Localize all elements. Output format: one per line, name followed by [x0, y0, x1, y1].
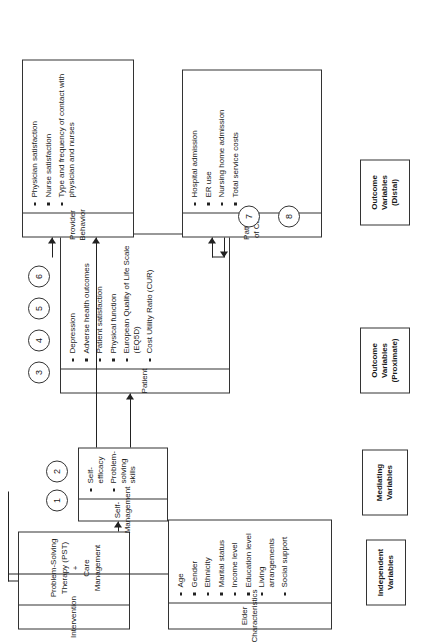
list-item: Cost Utility Ratio (CUR) [145, 239, 155, 362]
circle-marker-2: 2 [46, 460, 68, 482]
box-elder-header: Elder Characteristics [169, 602, 331, 628]
arrow-selfmgmt-to-provider [92, 237, 100, 243]
box-intervention-body: Problem-Solving Therapy (PST) + Care Man… [19, 532, 129, 604]
list-item: Total service costs [231, 75, 241, 206]
list-item: Gender [190, 525, 200, 596]
diagram-stage: Intervention Problem-Solving Therapy (PS… [0, 0, 426, 643]
list-item: Marital status [217, 525, 227, 596]
box-provider-body: Physician satisfaction Nurse satisfactio… [23, 60, 133, 212]
circle-marker-3: 3 [28, 361, 50, 383]
list-item: Type and frequency of contact with physi… [57, 65, 76, 206]
box-self-management: Self-Management Self-efficacy Problem-so… [78, 447, 168, 521]
self-management-item-list: Self-efficacy Problem-solving skills [86, 453, 138, 492]
line-selfmgmt-to-provider-horiz [96, 237, 97, 447]
circle-marker-1: 1 [46, 489, 68, 511]
list-item: Hospital admission [190, 75, 200, 206]
label-independent-variables: Independent Variables [366, 539, 406, 605]
list-item: Self-efficacy [86, 453, 105, 492]
list-item: Nurse satisfaction [44, 65, 54, 206]
list-item: Ethnicity [203, 525, 213, 596]
elder-header-line-1: Elder [240, 606, 249, 625]
connector-elder-up [8, 573, 168, 574]
circle-marker-4: 4 [28, 329, 50, 351]
list-item: Depression [68, 239, 78, 362]
list-item: Living arrangements [257, 525, 276, 596]
list-item: ER use [204, 75, 214, 206]
box-intervention-text: Problem-Solving Therapy (PST) + Care Man… [26, 537, 124, 598]
box-patterns-body: Hospital admission ER use Nursing home a… [183, 70, 321, 212]
label-mediating-variables: Mediating Variables [362, 449, 408, 515]
box-patient-body: Depression Adverse health outcomes Patie… [61, 234, 229, 368]
elder-item-list: Age Gender Ethnicity Marital status Inco… [176, 525, 290, 596]
mediating-label-line-1: Mediating [375, 463, 384, 500]
patient-item-list: Depression Adverse health outcomes Patie… [68, 239, 155, 362]
outcome-distal-label-line-3: (Distal) [390, 178, 399, 205]
list-item: Physical function [109, 239, 119, 362]
circle-marker-5: 5 [28, 297, 50, 319]
line-patient-riser [212, 256, 224, 257]
list-item: Physician satisfaction [30, 65, 40, 206]
intervention-line-2: Therapy (PST) [60, 541, 69, 593]
list-item: Adverse health outcomes [82, 239, 92, 362]
circle-marker-7: 7 [238, 205, 260, 227]
outcome-distal-label-line-1: Outcome [370, 175, 379, 210]
outcome-prox-label-line-2: Variables [380, 342, 389, 377]
line-selfmgmt-to-patient [130, 393, 131, 447]
arrow-into-self-management [114, 521, 122, 527]
outcome-distal-label-line-2: Variables [380, 174, 389, 209]
box-provider-behavior: Provider Behavior Physician satisfaction… [22, 59, 134, 237]
list-item: Age [176, 525, 186, 596]
intervention-line-1: Problem-Solving [49, 538, 58, 597]
mediating-label-line-2: Variables [385, 464, 394, 499]
box-elder-body: Age Gender Ethnicity Marital status Inco… [169, 520, 331, 602]
box-intervention-header: Intervention [19, 604, 129, 628]
list-item: Nursing home admission [217, 75, 227, 206]
outcome-prox-label-line-1: Outcome [370, 343, 379, 378]
list-item: Education level [244, 525, 254, 596]
box-patient: Patient Depression Adverse health outcom… [60, 233, 230, 393]
label-outcome-variables-proximate: Outcome Variables (Proximate) [360, 327, 410, 393]
arrow-patient-to-provider [48, 237, 56, 243]
intervention-line-5: Management [93, 544, 102, 591]
connector-brace-horizontal [8, 491, 9, 581]
connector-intervention-up [8, 580, 18, 581]
box-intervention: Intervention Problem-Solving Therapy (PS… [18, 531, 130, 629]
box-provider-header: Provider Behavior [23, 212, 133, 236]
list-item: European Quality of Life Scale (EQ5D) [122, 239, 141, 362]
list-item: Problem-solving skills [109, 453, 138, 492]
box-patient-header: Patient [61, 368, 229, 392]
provider-item-list: Physician satisfaction Nurse satisfactio… [30, 65, 76, 206]
list-item: Social support [280, 525, 290, 596]
label-outcome-variables-distal: Outcome Variables (Distal) [360, 159, 410, 225]
box-self-management-header: Self-Management [79, 498, 167, 520]
box-self-management-body: Self-efficacy Problem-solving skills [79, 448, 167, 498]
independent-label-line-1: Independent [376, 548, 385, 596]
arrow-patient-to-patterns [208, 237, 216, 243]
independent-label-line-2: Variables [386, 554, 395, 589]
intervention-line-3: + [71, 565, 80, 570]
circle-marker-6: 6 [28, 265, 50, 287]
list-item: Income level [230, 525, 240, 596]
patterns-item-list: Hospital admission ER use Nursing home a… [190, 75, 240, 206]
arrow-selfmgmt-to-patient [126, 393, 134, 399]
outcome-prox-label-line-3: (Proximate) [390, 338, 399, 382]
box-elder-characteristics: Elder Characteristics Age Gender Ethnici… [168, 519, 332, 629]
circle-marker-8: 8 [278, 205, 300, 227]
